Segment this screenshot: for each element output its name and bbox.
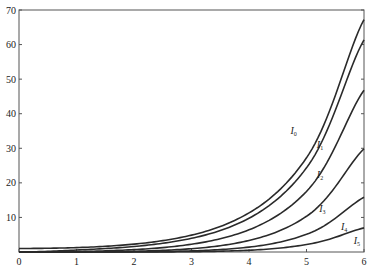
x-tick-label: 1 (74, 256, 79, 267)
curve-i3 (19, 149, 364, 252)
curve-label-i0: I0 (289, 125, 296, 137)
y-axis: 10203040506070 (6, 5, 364, 223)
y-tick-label: 20 (6, 177, 16, 188)
y-tick-label: 40 (6, 108, 16, 119)
y-tick-label: 50 (6, 74, 16, 85)
x-tick-label: 5 (304, 256, 309, 267)
y-tick-label: 70 (6, 5, 16, 16)
curves (19, 20, 364, 252)
y-tick-label: 10 (6, 212, 16, 223)
curve-label-i5: I5 (353, 235, 360, 247)
curve-i2 (19, 90, 364, 252)
x-tick-label: 6 (362, 256, 367, 267)
plot-border (19, 10, 364, 252)
bessel-function-chart: 10203040506070 0123456 I0I1I2I3I4I5 (0, 0, 372, 280)
x-tick-label: 4 (247, 256, 252, 267)
curve-label-i3: I3 (318, 203, 325, 215)
x-tick-label: 0 (17, 256, 22, 267)
curve-i1 (19, 40, 364, 252)
x-tick-label: 2 (132, 256, 137, 267)
curve-i0 (19, 20, 364, 249)
curve-labels: I0I1I2I3I4I5 (289, 125, 360, 247)
y-tick-label: 30 (6, 143, 16, 154)
x-tick-label: 3 (189, 256, 194, 267)
curve-label-i4: I4 (340, 221, 347, 233)
y-tick-label: 60 (6, 39, 16, 50)
plot-frame (19, 10, 364, 252)
